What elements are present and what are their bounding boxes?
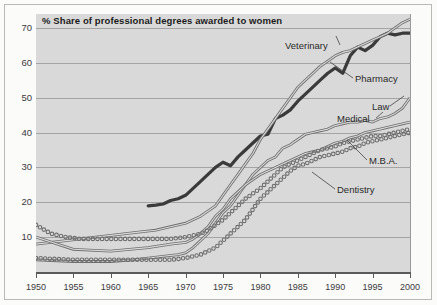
x-axis-tick — [260, 272, 261, 278]
series-label-veterinary: Veterinary — [285, 40, 328, 51]
x-axis-tick — [373, 272, 374, 278]
x-axis-tick — [298, 272, 299, 278]
chart-root: 10203040506070 % Share of professional d… — [0, 0, 437, 305]
x-axis-tick-label: 1980 — [240, 282, 280, 292]
x-axis-tick — [335, 272, 336, 278]
y-axis-tick-label: 60 — [6, 58, 32, 67]
series-label-pharmacy: Pharmacy — [355, 73, 398, 84]
x-axis-tick-label: 1970 — [166, 282, 206, 292]
x-axis-tick-label: 2000 — [390, 282, 430, 292]
series-label-medical: Medical — [337, 113, 370, 124]
x-axis-tick — [410, 272, 411, 278]
x-axis-tick-label: 1995 — [353, 282, 393, 292]
x-axis-tick-label: 1950 — [16, 282, 56, 292]
y-axis: 10203040506070 — [0, 0, 32, 305]
y-axis-tick-label: 10 — [6, 232, 32, 241]
x-axis-tick-label: 1975 — [203, 282, 243, 292]
plot-right-edge — [410, 14, 411, 272]
y-axis-tick-label: 40 — [6, 128, 32, 137]
x-axis-tick — [36, 272, 37, 278]
y-axis-tick-label: 50 — [6, 93, 32, 102]
x-axis-tick — [186, 272, 187, 278]
x-axis-tick-label: 1965 — [128, 282, 168, 292]
x-axis-tick — [111, 272, 112, 278]
x-axis-tick-label: 1990 — [315, 282, 355, 292]
x-axis-tick — [148, 272, 149, 278]
x-axis-tick-label: 1960 — [91, 282, 131, 292]
series-label-mba: M.B.A. — [369, 155, 398, 166]
x-axis-tick-label: 1985 — [278, 282, 318, 292]
x-axis-tick-label: 1955 — [53, 282, 93, 292]
x-axis-tick — [73, 272, 74, 278]
series-lines — [36, 14, 410, 272]
series-label-law: Law — [372, 101, 389, 112]
series-label-dentistry: Dentistry — [337, 184, 374, 195]
x-axis-tick — [223, 272, 224, 278]
chart-title: % Share of professional degrees awarded … — [42, 14, 282, 28]
y-axis-tick-label: 70 — [6, 23, 32, 32]
y-axis-tick-label: 20 — [6, 197, 32, 206]
y-axis-tick-label: 30 — [6, 162, 32, 171]
